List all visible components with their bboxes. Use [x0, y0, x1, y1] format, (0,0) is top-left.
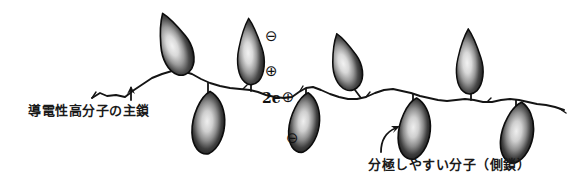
- main-chain-label: 導電性高分子の主鎖: [28, 104, 150, 117]
- lower-side-chain-group: [191, 83, 537, 165]
- positive-charge-icon-2e: ⊕: [282, 90, 295, 105]
- side-chain-label: 分極しやすい分子（側鎖）: [368, 158, 530, 171]
- polymer-main-chain: [92, 71, 566, 113]
- negative-charge-icon-lower: ⊖: [286, 131, 299, 146]
- two-electron-label: 2e: [262, 91, 281, 105]
- negative-charge-icon-top: ⊖: [265, 29, 278, 44]
- side-chain-drop: [191, 91, 226, 155]
- side-chain-drop: [323, 30, 368, 94]
- side-chain-lower-4: [498, 100, 537, 165]
- two-electron-charge-group: 2e ⊕: [262, 90, 294, 105]
- side-chain-drop: [454, 28, 484, 94]
- side-chain-drop: [235, 18, 266, 86]
- side-chain-drop: [148, 8, 201, 80]
- upper-side-chain-group: [148, 8, 485, 100]
- side-chain-upper-2: [235, 18, 266, 91]
- side-chain-upper-4: [454, 28, 484, 100]
- polymer-diagram-figure: 導電性高分子の主鎖 分極しやすい分子（側鎖） ⊖ ⊕ 2e ⊕ ⊖: [0, 0, 577, 190]
- positive-charge-icon-top: ⊕: [265, 64, 278, 79]
- side-chain-lower-3: [397, 94, 432, 160]
- side-chain-drop: [498, 100, 537, 165]
- side-chain-drop: [397, 97, 432, 160]
- side-chain-upper-1: [148, 8, 201, 80]
- side-chain-arrow: [381, 126, 400, 152]
- main-chain-arrow: [127, 86, 135, 100]
- side-chain-lower-1: [191, 83, 226, 154]
- side-chain-upper-3: [323, 30, 368, 98]
